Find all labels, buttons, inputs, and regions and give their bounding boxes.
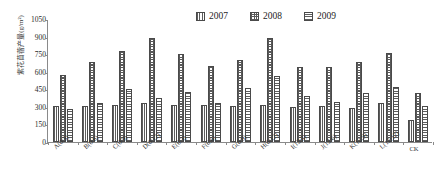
legend-label-2009: 2009: [317, 11, 336, 21]
bar-2008: [119, 51, 125, 142]
bar-group: [403, 20, 433, 142]
bar-2007: [171, 105, 177, 142]
x-tick-mark: [433, 142, 434, 145]
bar-2009: [126, 89, 132, 142]
bar-group: [166, 20, 196, 142]
bar-group: [48, 20, 78, 142]
bar-group: [226, 20, 256, 142]
bar-group: [137, 20, 167, 142]
bar-2008: [267, 38, 273, 142]
bar-2008: [149, 38, 155, 142]
bar-2007: [349, 108, 355, 142]
bar-2008: [297, 67, 303, 142]
bar-2007: [201, 105, 207, 142]
legend-item-2007: 2007: [196, 11, 228, 21]
bar-2007: [141, 103, 147, 142]
y-tick-label: 1050: [31, 16, 46, 24]
bar-group: [255, 20, 285, 142]
bar-2009: [215, 103, 221, 142]
legend-swatch-2007-icon: [196, 12, 205, 21]
chart-legend: 2007 2008 2009: [196, 11, 336, 21]
bar-2007: [290, 107, 296, 142]
bar-2007: [260, 105, 266, 142]
y-axis-tick-labels: 01503004506007509001050: [22, 16, 46, 144]
bar-2008: [89, 62, 95, 142]
bar-group: [315, 20, 345, 142]
legend-label-2008: 2008: [263, 11, 282, 21]
bar-2008: [415, 93, 421, 142]
legend-swatch-2009-icon: [304, 12, 313, 21]
bar-2009: [245, 88, 251, 142]
legend-label-2007: 2007: [209, 11, 228, 21]
legend-item-2009: 2009: [304, 11, 336, 21]
plot-area: [47, 20, 432, 143]
bar-2007: [378, 103, 384, 142]
bar-2007: [319, 106, 325, 142]
bar-group: [78, 20, 108, 142]
bar-2007: [82, 106, 88, 142]
bar-2007: [53, 106, 59, 142]
x-tick-label: CK: [409, 145, 418, 152]
bar-2008: [208, 66, 214, 142]
bar-2009: [185, 92, 191, 142]
x-axis-tick-labels: A(0:3)B(0:6)C(0:9)D(0:12)E(6:3)F(6:6)G(6…: [47, 145, 432, 193]
bar-2008: [237, 60, 243, 142]
bar-2007: [230, 106, 236, 142]
bar-group: [344, 20, 374, 142]
bar-2007: [112, 105, 118, 142]
bar-2008: [356, 62, 362, 142]
bar-group: [374, 20, 404, 142]
legend-item-2008: 2008: [250, 11, 282, 21]
bar-2008: [326, 67, 332, 142]
bar-2008: [178, 54, 184, 142]
legend-swatch-2008-icon: [250, 12, 259, 21]
bar-group: [196, 20, 226, 142]
chart-figure: 紫花苜蓿产量(g/m²) 01503004506007509001050 A(0…: [0, 0, 438, 196]
bar-2008: [386, 53, 392, 142]
bar-2007: [408, 120, 414, 142]
bar-2009: [422, 106, 428, 142]
bar-group: [107, 20, 137, 142]
bar-group: [285, 20, 315, 142]
